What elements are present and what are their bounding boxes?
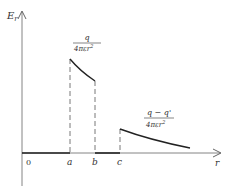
tick-label-b: b bbox=[92, 157, 98, 167]
tick-label-a: a bbox=[67, 157, 72, 167]
formula2-numerator: q − q' bbox=[147, 108, 171, 117]
field-diagram: Er r 0 a b c q 4πεr2 q − q' 4πεr2 bbox=[0, 0, 235, 186]
formula2-denominator: 4πεr2 bbox=[145, 119, 165, 129]
tick-label-c: c bbox=[117, 157, 122, 167]
field-curve-region1 bbox=[70, 59, 95, 81]
formula1-numerator: q bbox=[84, 33, 89, 42]
formula-region1: q 4πεr2 bbox=[73, 33, 101, 53]
formula-region2: q − q' 4πεr2 bbox=[144, 108, 174, 129]
y-axis-subscript: r bbox=[14, 15, 18, 23]
field-curve-region2 bbox=[120, 129, 190, 148]
formula1-denominator: 4πεr2 bbox=[73, 43, 93, 53]
origin-label: 0 bbox=[26, 158, 31, 167]
x-axis-label: r bbox=[215, 158, 220, 168]
y-axis-label: Er bbox=[6, 10, 18, 23]
